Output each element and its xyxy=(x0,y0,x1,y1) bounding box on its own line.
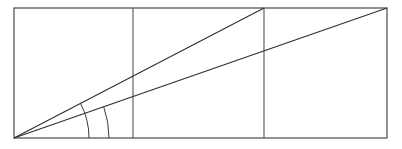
lower-ray-line xyxy=(14,8,387,138)
upper-ray-line xyxy=(14,8,264,138)
geometry-figure-canvas xyxy=(0,0,402,149)
geometry-figure-svg xyxy=(0,0,402,149)
inner-angle-arc xyxy=(81,103,89,138)
outer-angle-arc xyxy=(104,107,109,138)
